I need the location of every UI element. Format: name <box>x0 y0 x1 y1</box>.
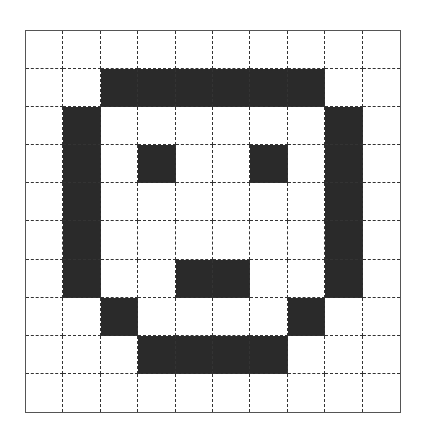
empty-cell <box>101 336 138 374</box>
empty-cell <box>288 145 325 183</box>
filled-cell <box>63 260 100 298</box>
empty-cell <box>288 260 325 298</box>
filled-cell <box>138 145 175 183</box>
empty-cell <box>26 374 63 412</box>
filled-cell <box>288 69 325 107</box>
filled-cell <box>250 336 287 374</box>
empty-cell <box>363 183 400 221</box>
empty-cell <box>176 107 213 145</box>
empty-cell <box>26 145 63 183</box>
empty-cell <box>288 183 325 221</box>
filled-cell <box>138 69 175 107</box>
empty-cell <box>363 107 400 145</box>
filled-cell <box>213 69 250 107</box>
filled-cell <box>213 336 250 374</box>
filled-cell <box>325 221 362 259</box>
empty-cell <box>288 31 325 69</box>
empty-cell <box>101 31 138 69</box>
filled-cell <box>101 298 138 336</box>
empty-cell <box>26 260 63 298</box>
filled-cell <box>176 260 213 298</box>
empty-cell <box>26 336 63 374</box>
empty-cell <box>138 298 175 336</box>
filled-cell <box>138 336 175 374</box>
filled-cell <box>325 260 362 298</box>
empty-cell <box>325 336 362 374</box>
filled-cell <box>63 145 100 183</box>
empty-cell <box>363 336 400 374</box>
empty-cell <box>101 221 138 259</box>
empty-cell <box>288 336 325 374</box>
empty-cell <box>176 31 213 69</box>
empty-cell <box>63 31 100 69</box>
empty-cell <box>63 374 100 412</box>
empty-cell <box>213 374 250 412</box>
filled-cell <box>325 145 362 183</box>
empty-cell <box>26 183 63 221</box>
filled-cell <box>63 107 100 145</box>
empty-cell <box>363 69 400 107</box>
empty-cell <box>250 107 287 145</box>
empty-cell <box>138 107 175 145</box>
empty-cell <box>63 298 100 336</box>
filled-cell <box>250 145 287 183</box>
empty-cell <box>26 221 63 259</box>
empty-cell <box>138 183 175 221</box>
empty-cell <box>176 298 213 336</box>
empty-cell <box>101 260 138 298</box>
empty-cell <box>176 374 213 412</box>
empty-cell <box>250 260 287 298</box>
empty-cell <box>250 221 287 259</box>
empty-cell <box>63 336 100 374</box>
empty-cell <box>176 183 213 221</box>
empty-cell <box>250 374 287 412</box>
empty-cell <box>363 145 400 183</box>
empty-cell <box>26 107 63 145</box>
empty-cell <box>250 183 287 221</box>
filled-cell <box>176 336 213 374</box>
empty-cell <box>363 298 400 336</box>
empty-cell <box>26 298 63 336</box>
filled-cell <box>63 221 100 259</box>
filled-cell <box>325 107 362 145</box>
filled-cell <box>101 69 138 107</box>
empty-cell <box>213 145 250 183</box>
empty-cell <box>250 298 287 336</box>
empty-cell <box>101 107 138 145</box>
empty-cell <box>288 374 325 412</box>
empty-cell <box>325 69 362 107</box>
empty-cell <box>101 183 138 221</box>
empty-cell <box>213 183 250 221</box>
empty-cell <box>176 145 213 183</box>
filled-cell <box>325 183 362 221</box>
empty-cell <box>101 374 138 412</box>
empty-cell <box>288 221 325 259</box>
empty-cell <box>325 374 362 412</box>
empty-cell <box>138 221 175 259</box>
empty-cell <box>363 31 400 69</box>
empty-cell <box>138 374 175 412</box>
empty-cell <box>213 107 250 145</box>
filled-cell <box>213 260 250 298</box>
empty-cell <box>26 69 63 107</box>
filled-cell <box>288 298 325 336</box>
empty-cell <box>138 31 175 69</box>
filled-cell <box>63 183 100 221</box>
empty-cell <box>363 374 400 412</box>
empty-cell <box>363 260 400 298</box>
pixel-grid <box>25 30 401 413</box>
empty-cell <box>325 298 362 336</box>
empty-cell <box>288 107 325 145</box>
empty-cell <box>250 31 287 69</box>
empty-cell <box>325 31 362 69</box>
empty-cell <box>138 260 175 298</box>
empty-cell <box>63 69 100 107</box>
filled-cell <box>250 69 287 107</box>
empty-cell <box>101 145 138 183</box>
empty-cell <box>26 31 63 69</box>
filled-cell <box>176 69 213 107</box>
empty-cell <box>213 298 250 336</box>
empty-cell <box>363 221 400 259</box>
empty-cell <box>176 221 213 259</box>
empty-cell <box>213 31 250 69</box>
